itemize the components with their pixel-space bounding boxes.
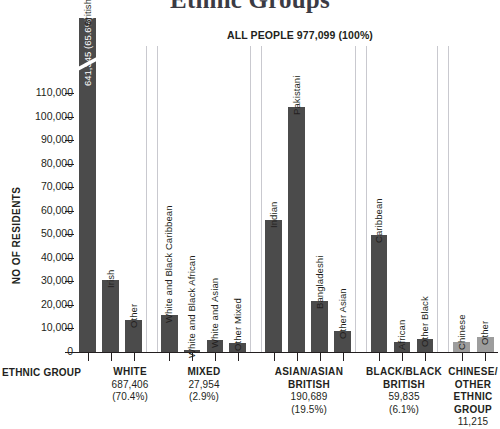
group-total: 687,406 <box>90 379 170 392</box>
x-axis-tick-mark <box>192 352 193 361</box>
bar-pakistani <box>288 107 305 352</box>
x-axis-tick-mark <box>274 352 275 361</box>
x-axis-tick-mark <box>297 352 298 361</box>
group-separator-line <box>355 46 356 352</box>
group-percent: (6.1%) <box>362 404 446 417</box>
bar-label: Other Asian <box>337 288 348 339</box>
x-axis-tick-mark <box>111 352 112 361</box>
group-separator-line <box>157 46 158 352</box>
group-footer-asian-asian-british: ASIAN/ASIAN BRITISH190,689(19.5%) <box>266 366 352 416</box>
bar-label: Caribbean <box>373 199 384 244</box>
x-axis-title: ETHNIC GROUP <box>2 367 88 378</box>
group-separator-line <box>437 46 438 352</box>
x-axis-tick-mark <box>88 352 89 361</box>
bar-value-british: 641,345 (65.6%) <box>82 16 93 86</box>
bar-indian <box>265 220 282 352</box>
bar-label: Pakistani <box>291 76 302 115</box>
bar-label: British <box>82 0 93 26</box>
group-name: WHITE <box>90 366 170 379</box>
group-separator-line <box>261 46 262 352</box>
x-axis-baseline <box>74 352 498 353</box>
bar-label: White and Black African <box>186 255 197 358</box>
x-axis-tick-mark <box>134 352 135 361</box>
x-axis-tick-mark <box>169 352 170 361</box>
x-axis-tick-mark <box>425 352 426 361</box>
group-percent: (2.9%) <box>163 391 245 404</box>
y-axis-tick-mark <box>65 352 74 353</box>
x-axis-tick-mark <box>402 352 403 361</box>
x-axis-tick-mark <box>238 352 239 361</box>
group-separator-line <box>448 46 449 352</box>
bar-label: Irish <box>105 270 116 288</box>
group-footer-black-black-british: BLACK/BLACK BRITISH59,835(6.1%) <box>362 366 446 416</box>
group-name: ASIAN/ASIAN BRITISH <box>266 366 352 391</box>
group-footer-chinese-other-ethnic-group: CHINESE/ OTHER ETHNIC GROUP11,215 <box>448 366 498 429</box>
bar-label: Chinese <box>456 314 467 350</box>
bar-label: White and Asian <box>209 277 220 347</box>
group-name: MIXED <box>163 366 245 379</box>
group-name: BLACK/BLACK BRITISH <box>362 366 446 391</box>
group-separator-line <box>146 46 147 352</box>
group-footer-mixed: MIXED27,954(2.9%) <box>163 366 245 404</box>
group-percent: (19.5%) <box>266 404 352 417</box>
x-axis-tick-mark <box>485 352 486 361</box>
group-percent: (70.4%) <box>90 391 170 404</box>
group-footer-white: WHITE687,406(70.4%) <box>90 366 170 404</box>
bar-label: Other Black <box>419 296 430 347</box>
bar-label: Indian <box>268 202 279 228</box>
bar-label: Other <box>128 303 139 327</box>
bar-label: Other Mixed <box>232 298 243 351</box>
x-axis-tick-mark <box>462 352 463 361</box>
group-total: 59,835 <box>362 391 446 404</box>
group-total: 11,215 <box>448 416 498 429</box>
group-separator-line <box>366 46 367 352</box>
bar-label: African <box>396 320 407 350</box>
bar-label: White and Black Caribbean <box>163 206 174 324</box>
group-total: 27,954 <box>163 379 245 392</box>
x-axis-tick-mark <box>215 352 216 361</box>
bar-label: Other <box>479 321 490 345</box>
bar-irish <box>102 280 119 352</box>
x-axis-tick-mark <box>320 352 321 361</box>
group-name: CHINESE/ OTHER ETHNIC GROUP <box>448 366 498 416</box>
group-separator-line <box>250 46 251 352</box>
x-axis-tick-mark <box>379 352 380 361</box>
bar-label: Bangladeshi <box>314 255 325 308</box>
group-total: 190,689 <box>266 391 352 404</box>
bar-caribbean <box>371 235 387 352</box>
x-axis-tick-mark <box>343 352 344 361</box>
